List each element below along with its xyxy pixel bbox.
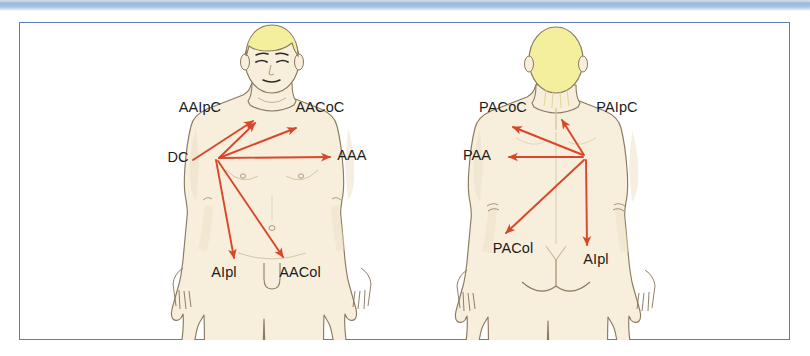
arrow-hub-to-aaa xyxy=(219,157,330,158)
top-banner xyxy=(0,0,810,11)
label-aaipc: AAIpC xyxy=(179,99,221,115)
anatomical-diagram: AAIpC AACoC DC AAA AIpl AACol xyxy=(19,22,790,340)
anterior-shade-right xyxy=(345,128,354,200)
label-dc: DC xyxy=(167,149,188,165)
arrow-hub-to-aipl-posterior xyxy=(586,160,587,245)
label-aacol: AACol xyxy=(279,264,321,280)
anterior-groin xyxy=(264,263,280,289)
diagram-stage: AAIpC AACoC DC AAA AIpl AACol xyxy=(19,22,790,340)
label-pacol: PACol xyxy=(493,240,534,256)
anterior-ear-left xyxy=(241,54,250,70)
posterior-ear-left xyxy=(525,56,534,72)
label-aipl-posterior: AIpl xyxy=(583,251,608,267)
label-paa: PAA xyxy=(463,147,491,163)
label-paipc: PAIpC xyxy=(596,99,637,115)
label-pacoc: PACoC xyxy=(479,99,527,115)
anterior-hand-right xyxy=(353,268,371,309)
posterior-ear-right xyxy=(579,56,588,72)
label-aaa: AAA xyxy=(337,147,367,163)
banner-shade xyxy=(0,0,810,4)
posterior-shade-right xyxy=(629,130,638,202)
anterior-body-illustration xyxy=(171,25,371,340)
posterior-hand-right xyxy=(637,270,655,311)
label-aacoc: AACoC xyxy=(296,99,345,115)
posterior-body-illustration xyxy=(455,27,655,340)
anterior-ear-right xyxy=(295,54,304,70)
label-aipl: AIpl xyxy=(211,264,236,280)
posterior-head-hair xyxy=(529,27,583,93)
